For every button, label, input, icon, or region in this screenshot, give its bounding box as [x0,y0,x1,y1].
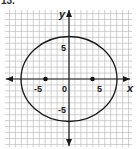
y-axis-label: y [58,8,66,20]
focus-point-left [43,77,48,82]
graph: y x -5 0 5 5 -5 [0,0,137,149]
x-axis [6,76,130,82]
y-axis [66,10,72,146]
focus-point-right [90,77,95,82]
y-tick-pos5: 5 [61,43,66,53]
x-tick-pos5: 5 [97,84,102,94]
y-axis-down-arrow-icon [66,139,72,146]
x-tick-zero: 0 [62,84,67,94]
y-tick-neg5: -5 [58,105,66,115]
x-tick-neg5: -5 [34,84,42,94]
x-axis-label: x [126,82,134,94]
